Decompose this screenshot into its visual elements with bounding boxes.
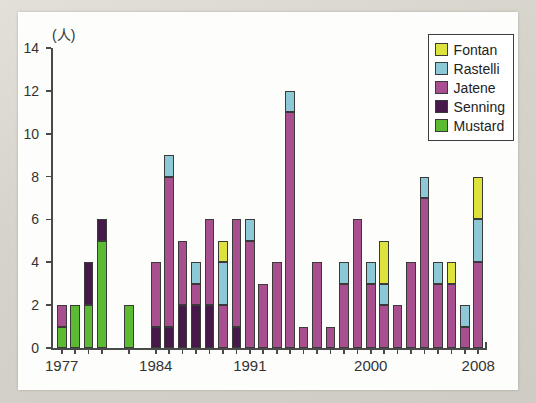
bar-segment-2000-rastelli (366, 262, 376, 283)
bar-segment-2004-rastelli (420, 177, 430, 198)
bar-1996 (312, 262, 322, 348)
bar-2000 (366, 262, 376, 348)
legend: FontanRastelliJateneSenningMustard (428, 34, 514, 141)
bar-segment-2001-rastelli (379, 284, 389, 305)
x-tick-1985 (168, 349, 170, 354)
x-tick-2005 (437, 349, 439, 354)
bar-1993 (272, 262, 282, 348)
x-tick-1988 (209, 349, 211, 354)
y-tick-label-14: 14 (11, 41, 39, 55)
bar-1982 (124, 305, 134, 348)
legend-item-fontan: Fontan (435, 40, 505, 59)
x-tick-1977 (61, 349, 63, 354)
y-tick-label-12: 12 (11, 84, 39, 98)
x-tick-1979 (88, 349, 90, 354)
bar-segment-1984-jatene (151, 262, 161, 326)
bar-1998 (339, 262, 349, 348)
bar-segment-1987-rastelli (191, 262, 201, 283)
legend-item-jatene: Jatene (435, 78, 505, 97)
legend-label-rastelli: Rastelli (454, 62, 500, 76)
bar-1994 (285, 91, 295, 348)
x-tick-2004 (424, 349, 426, 354)
bar-segment-1982-mustard (124, 305, 134, 348)
x-tick-1980 (101, 349, 103, 354)
bar-2007 (460, 305, 470, 348)
bar-segment-2005-rastelli (433, 262, 443, 283)
bar-1988 (205, 219, 215, 348)
y-tick-0 (46, 347, 51, 349)
bar-2001 (379, 241, 389, 348)
bar-segment-2007-rastelli (460, 305, 470, 326)
x-tick-1997 (330, 349, 332, 354)
bar-segment-2005-jatene (433, 284, 443, 348)
x-tick-label-2000: 2000 (341, 358, 401, 374)
y-tick-label-6: 6 (11, 212, 39, 226)
y-axis-line (51, 48, 53, 350)
bar-segment-1994-rastelli (285, 91, 295, 112)
bar-segment-2007-jatene (460, 327, 470, 348)
legend-item-rastelli: Rastelli (435, 59, 505, 78)
x-tick-1978 (74, 349, 76, 354)
bar-segment-2006-jatene (447, 284, 457, 348)
x-tick-1982 (128, 349, 130, 354)
bar-segment-1988-senning (205, 305, 215, 348)
x-tick-2007 (464, 349, 466, 354)
legend-item-mustard: Mustard (435, 116, 505, 135)
x-tick-label-1991: 1991 (220, 358, 280, 374)
x-tick-1992 (262, 349, 264, 354)
x-axis-end-cap (485, 342, 487, 349)
legend-label-jatene: Jatene (454, 81, 496, 95)
bar-segment-2006-fontan (447, 262, 457, 283)
legend-swatch-jatene-icon (435, 81, 448, 94)
bar-2002 (393, 305, 403, 348)
bar-segment-1985-senning (164, 327, 174, 348)
x-tick-label-1977: 1977 (32, 358, 92, 374)
bar-segment-1978-mustard (70, 305, 80, 348)
bar-segment-1979-mustard (84, 305, 94, 348)
bar-segment-1988-jatene (205, 219, 215, 305)
bar-segment-2001-fontan (379, 241, 389, 284)
y-tick-2 (46, 304, 51, 306)
y-tick-label-10: 10 (11, 127, 39, 141)
y-tick-label-4: 4 (11, 255, 39, 269)
y-tick-6 (46, 219, 51, 221)
x-tick-1998 (343, 349, 345, 354)
bar-1992 (258, 284, 268, 348)
bar-2003 (406, 262, 416, 348)
bar-segment-1991-jatene (245, 241, 255, 348)
y-tick-14 (46, 47, 51, 49)
x-tick-1991 (249, 349, 251, 354)
bar-1990 (232, 219, 242, 348)
bar-segment-1977-jatene (57, 305, 67, 326)
bar-segment-1989-rastelli (218, 262, 228, 305)
x-tick-2006 (451, 349, 453, 354)
bar-segment-2008-fontan (473, 177, 483, 220)
bar-segment-2001-jatene (379, 305, 389, 348)
bar-1991 (245, 219, 255, 348)
legend-swatch-senning-icon (435, 100, 448, 113)
bar-1984 (151, 262, 161, 348)
bar-segment-1980-senning (97, 219, 107, 240)
x-tick-1987 (195, 349, 197, 354)
bar-segment-1992-jatene (258, 284, 268, 348)
bar-1995 (299, 327, 309, 348)
chart-screenshot: (人) 19771984199120002008 02468101214 Fon… (0, 0, 536, 403)
bar-segment-1979-senning (84, 262, 94, 305)
x-tick-1984 (155, 349, 157, 354)
x-tick-2008 (477, 349, 479, 354)
legend-label-fontan: Fontan (454, 43, 498, 57)
bar-1997 (326, 327, 336, 348)
x-tick-1986 (182, 349, 184, 354)
x-tick-1999 (357, 349, 359, 354)
y-tick-12 (46, 90, 51, 92)
bar-segment-1989-fontan (218, 241, 228, 262)
bar-segment-1989-jatene (218, 305, 228, 348)
bar-segment-1985-rastelli (164, 155, 174, 176)
y-tick-4 (46, 261, 51, 263)
bar-1989 (218, 241, 228, 348)
y-tick-label-8: 8 (11, 170, 39, 184)
legend-swatch-rastelli-icon (435, 62, 448, 75)
bar-segment-2003-jatene (406, 262, 416, 348)
x-tick-1994 (289, 349, 291, 354)
x-tick-1990 (236, 349, 238, 354)
